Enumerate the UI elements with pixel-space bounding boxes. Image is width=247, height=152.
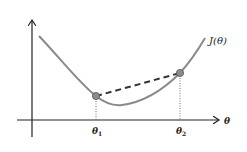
theta2-label: θ2: [176, 126, 186, 137]
x-axis-label: θ: [224, 116, 230, 126]
convex-function-diagram: J(θ) θ θ1 θ2: [0, 0, 247, 152]
point-theta1: [92, 92, 99, 99]
theta1-label: θ1: [92, 126, 102, 137]
curve-label: J(θ): [207, 35, 227, 46]
point-theta2: [176, 69, 183, 76]
